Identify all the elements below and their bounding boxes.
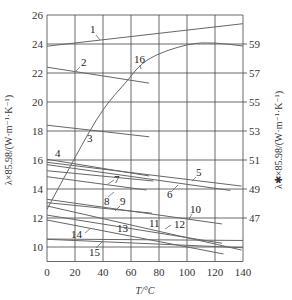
y-right-tick-label: 53 xyxy=(249,125,261,137)
x-tick-label: 120 xyxy=(207,266,224,278)
y-left-tick-label: 16 xyxy=(32,154,44,166)
curve-label-6: 6 xyxy=(167,188,173,200)
y-left-tick-label: 24 xyxy=(32,38,44,50)
y-left-tick-label: 14 xyxy=(32,183,44,195)
curve-label-12: 12 xyxy=(174,218,185,230)
curve-label-13: 13 xyxy=(117,222,129,234)
leader-line-2 xyxy=(76,67,80,71)
curve-label-3: 3 xyxy=(87,132,93,144)
grid xyxy=(47,15,247,262)
series-line-6 xyxy=(47,165,230,191)
x-tick-label: 20 xyxy=(70,266,82,278)
curve-label-10: 10 xyxy=(190,203,202,215)
leader-line-16 xyxy=(140,65,141,69)
y-right-tick-label: 49 xyxy=(249,183,261,195)
curve-label-2: 2 xyxy=(81,56,87,68)
curve-label-11: 11 xyxy=(149,217,160,229)
x-tick-label: 80 xyxy=(154,266,166,278)
series-line-2 xyxy=(47,67,149,83)
curve-label-15: 15 xyxy=(89,246,101,258)
curve-label-9: 9 xyxy=(120,195,126,207)
curve-label-5: 5 xyxy=(196,166,202,178)
y-right-tick-label: 55 xyxy=(249,96,261,108)
x-tick-label: 0 xyxy=(44,266,50,278)
left-axis-title: λ×85.98/(W·m⁻¹·K⁻¹) xyxy=(3,95,15,185)
x-tick-label: 40 xyxy=(98,266,110,278)
y-right-tick-label: 47 xyxy=(249,212,261,224)
x-axis-title: T/°C xyxy=(135,285,154,296)
curve-labels: 12345678910111213141516 xyxy=(55,23,202,258)
leader-line-1 xyxy=(96,35,100,40)
leader-line-12 xyxy=(165,225,171,229)
curve-label-7: 7 xyxy=(114,173,120,185)
series-line-16 xyxy=(47,43,243,209)
right-axis-title: λ✱×85.98/(W·m⁻¹·K⁻¹) xyxy=(273,91,285,189)
leader-line-14 xyxy=(85,229,90,233)
curve-label-8: 8 xyxy=(104,195,110,207)
chart-svg: 12345678910111213141516 0204060801001201… xyxy=(0,0,292,300)
x-tick-label: 140 xyxy=(235,266,252,278)
y-left-tick-label: 10 xyxy=(32,241,44,253)
y-right-tick-label: 59 xyxy=(249,38,261,50)
tick-labels: 0204060801001201401012141618202224264749… xyxy=(32,9,261,278)
leader-line-6 xyxy=(172,185,178,191)
series-line-4 xyxy=(47,159,149,176)
y-left-tick-label: 22 xyxy=(32,67,43,79)
label-leaders xyxy=(76,35,196,248)
y-left-tick-label: 20 xyxy=(32,96,44,108)
x-tick-label: 60 xyxy=(126,266,138,278)
curve-label-16: 16 xyxy=(134,53,146,65)
series-line-5 xyxy=(47,162,242,186)
curve-label-4: 4 xyxy=(55,147,61,159)
y-left-tick-label: 12 xyxy=(32,212,43,224)
curve-label-14: 14 xyxy=(71,228,83,240)
x-tick-label: 100 xyxy=(179,266,196,278)
y-right-tick-label: 51 xyxy=(249,154,260,166)
y-left-tick-label: 18 xyxy=(32,125,44,137)
series-lines xyxy=(47,24,243,254)
curve-label-1: 1 xyxy=(90,23,96,35)
y-right-tick-label: 57 xyxy=(249,67,261,79)
y-left-tick-label: 26 xyxy=(32,9,44,21)
